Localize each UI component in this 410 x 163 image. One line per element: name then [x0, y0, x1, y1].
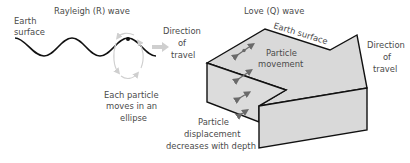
rayleigh-wave-line	[15, 38, 156, 56]
rayleigh-surface-label-1: Earth	[14, 16, 36, 26]
rayleigh-direction-arrow	[152, 42, 169, 52]
ellipse-label-2: moves in an	[106, 101, 157, 111]
displacement-label-3: decreases with depth	[166, 141, 256, 151]
love-particle-dot	[242, 49, 245, 52]
rayleigh-direction-label-3: travel	[171, 50, 195, 60]
rayleigh-title: Rayleigh (R) wave	[54, 6, 130, 16]
rayleigh-direction-label-1: Direction	[163, 26, 201, 36]
love-direction-label-1: Direction	[367, 40, 405, 50]
movement-label-1: Particle	[266, 48, 297, 58]
displacement-label-1: Particle	[198, 117, 229, 127]
rayleigh-direction-label-2: of	[178, 38, 187, 48]
love-title: Love (Q) wave	[244, 6, 304, 16]
love-direction-label-3: travel	[373, 64, 397, 74]
rayleigh-surface-label-2: surface	[14, 27, 45, 37]
love-direction-label-2: of	[383, 52, 392, 62]
ellipse-label-3: ellipse	[120, 113, 147, 123]
particle-dot	[126, 37, 130, 41]
displacement-label-2: displacement	[184, 129, 241, 139]
movement-label-2: movement	[258, 59, 304, 69]
ellipse-label-1: Each particle	[104, 90, 159, 100]
seismic-waves-diagram: Rayleigh (R) wave Earth surface Directio…	[0, 0, 410, 163]
